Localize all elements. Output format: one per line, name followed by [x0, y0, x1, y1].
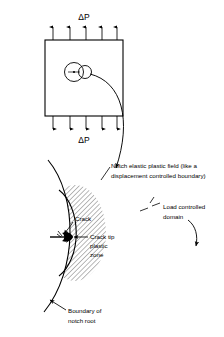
load-bottom-label: ΔP	[78, 135, 90, 145]
boundary-label-line1: Boundary of	[68, 307, 102, 314]
magnified-notch-view: Crack Crack tip plastic zone Notch elast…	[44, 160, 206, 324]
fracture-mechanics-diagram: ΔP ΔP Crack	[0, 0, 224, 337]
crack-tip-zone-label-line2: plastic	[90, 242, 108, 249]
load-domain-label-line2: domain	[163, 213, 184, 220]
boundary-label-line2: notch root	[68, 317, 96, 324]
load-domain-label-line1: Load controlled	[163, 203, 206, 210]
crack-tip-zone-label-line1: Crack tip	[90, 233, 115, 240]
bottom-load-arrows	[53, 116, 117, 129]
specimen-group: ΔP ΔP	[45, 12, 124, 168]
top-load-arrows	[53, 27, 117, 40]
magnify-leader-line	[90, 74, 124, 168]
crack-label: Crack	[75, 215, 92, 222]
load-domain-leader-line	[188, 220, 197, 246]
notch-field-label-line1: Notch elastic plastic field (like a	[111, 162, 198, 169]
notch-field-label-line2: displacement controlled boundary)	[111, 172, 206, 179]
load-top-label: ΔP	[78, 12, 90, 22]
boundary-leader-line	[50, 300, 66, 310]
notch-detail-marker	[65, 63, 92, 82]
notch-field-leader-line	[101, 167, 110, 180]
crack-tip-zone-label-line3: zone	[90, 251, 104, 258]
load-domain-tick-marks	[140, 197, 160, 211]
